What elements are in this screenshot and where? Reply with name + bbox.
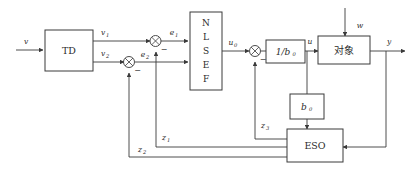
- summing-junction-e1-sign: −: [161, 45, 168, 54]
- block-plant-label: 对象: [334, 44, 354, 56]
- block-nlsef-letter-f: F: [203, 74, 209, 84]
- signal-label-z2-subscript: 2: [142, 149, 146, 155]
- signal-label-e1-subscript: 1: [175, 32, 178, 38]
- summing-junction-e1: [150, 36, 161, 47]
- block-b0-label: b: [301, 102, 307, 112]
- signal-label-u0-subscript: 0: [234, 42, 238, 48]
- block-b0: [290, 94, 324, 119]
- block-inverse-b0-label: 1/b: [276, 47, 291, 57]
- block-nlsef-letter-e: E: [203, 60, 210, 70]
- summing-junction-u-sign: −: [260, 55, 267, 64]
- adrc-block-diagram: TD N L S E F 1/b 0 对象 b 0 ESO − − − v v: [0, 0, 414, 173]
- signal-label-v2-subscript: 2: [105, 53, 109, 59]
- signal-label-z2: z: [137, 145, 142, 154]
- signal-label-v1-subscript: 1: [106, 32, 109, 38]
- signal-label-w: w: [357, 21, 364, 30]
- block-nlsef-letter-n: N: [202, 18, 210, 28]
- signal-label-e2-subscript: 2: [145, 54, 149, 60]
- signal-label-v: v: [24, 37, 29, 46]
- block-nlsef-letter-s: S: [203, 46, 209, 56]
- wire-y-feedback-to-eso: [343, 51, 386, 147]
- signal-label-z3-subscript: 3: [266, 125, 270, 131]
- summing-junction-e2-sign: −: [134, 66, 141, 75]
- summing-junction-e2: [124, 57, 135, 68]
- signal-label-u: u: [308, 37, 313, 46]
- block-td-label: TD: [62, 45, 76, 56]
- wire-z3-to-sum-u: [255, 62, 287, 139]
- signal-label-u0: u: [229, 38, 234, 47]
- block-eso-label: ESO: [304, 140, 325, 151]
- block-nlsef-letter-l: L: [203, 32, 209, 42]
- diagram-canvas: TD N L S E F 1/b 0 对象 b 0 ESO − − − v v: [0, 0, 414, 173]
- signal-label-z3: z: [260, 121, 265, 130]
- signal-label-z1-subscript: 1: [167, 137, 170, 143]
- signal-label-z1: z: [161, 133, 166, 142]
- signal-label-y: y: [386, 37, 392, 46]
